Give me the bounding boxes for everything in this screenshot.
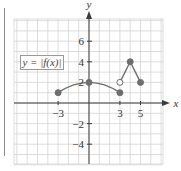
x-tick-label: 5 (138, 107, 144, 119)
y-tick-label: 4 (79, 56, 85, 68)
y-tick-label: −4 (72, 138, 84, 150)
closed-point (86, 79, 92, 85)
closed-point (138, 79, 144, 85)
y-axis-arrow-icon (86, 11, 92, 19)
y-tick-label: −2 (72, 118, 84, 130)
x-tick-label: 3 (117, 107, 123, 119)
y-tick-label: 2 (79, 76, 85, 88)
function-label: y = |f(x)| (20, 55, 64, 70)
y-axis-label: y (86, 0, 92, 10)
y-tick-label: 6 (79, 35, 85, 47)
graph: xy−335642−2−4 (0, 0, 181, 171)
x-tick-label: −3 (52, 107, 64, 119)
x-axis-arrow-icon (162, 100, 170, 106)
x-axis-label: x (173, 97, 179, 109)
closed-point (55, 90, 61, 96)
open-point (117, 79, 123, 85)
tick-labels: xy−335642−2−4 (52, 0, 178, 150)
closed-point (127, 59, 133, 65)
closed-point (117, 90, 123, 96)
